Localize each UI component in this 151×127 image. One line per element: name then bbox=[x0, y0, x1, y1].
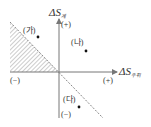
y-negative-label: (−) bbox=[61, 110, 71, 119]
y-axis-label: ΔS계 bbox=[48, 6, 67, 19]
y-positive-label: (+) bbox=[61, 20, 71, 29]
x-negative-label: (−) bbox=[10, 76, 20, 85]
point-da-label: (다) bbox=[63, 95, 76, 104]
entropy-diagram: ΔS계 ΔS주위 (+) (−) (+) (−) (가) (나) (다) bbox=[0, 0, 151, 127]
point-ga bbox=[37, 36, 40, 39]
point-na bbox=[85, 50, 88, 53]
point-ga-label: (가) bbox=[23, 26, 36, 35]
x-positive-label: (+) bbox=[103, 76, 113, 85]
point-da bbox=[78, 106, 81, 109]
x-axis-label: ΔS주위 bbox=[118, 65, 141, 78]
point-na-label: (나) bbox=[71, 38, 84, 47]
